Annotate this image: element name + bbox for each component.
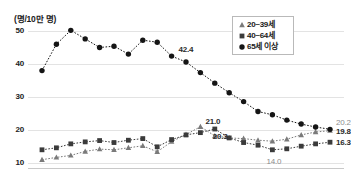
data-label-14-0: 14.0: [266, 157, 281, 166]
legend-item-label: 40~64세: [247, 30, 275, 41]
data-point: [241, 140, 246, 145]
data-point: [270, 147, 275, 152]
data-point: [270, 112, 275, 117]
data-point: [198, 124, 204, 129]
circle-marker: [237, 43, 246, 51]
legend-item-label: 65세 이상: [247, 41, 277, 52]
data-point: [328, 140, 333, 145]
data-point: [112, 140, 117, 145]
data-point: [256, 143, 261, 148]
data-point: [298, 132, 304, 137]
data-point: [39, 157, 45, 162]
data-point: [140, 136, 145, 141]
data-point: [40, 147, 45, 152]
data-point: [169, 53, 174, 58]
chart-legend: 20~39세40~64세65세 이상: [232, 16, 294, 55]
triangle-marker: [237, 21, 246, 29]
data-label-42-4: 42.4: [179, 45, 194, 54]
data-point: [212, 127, 217, 132]
legend-item-1[interactable]: 20~39세: [237, 19, 288, 30]
data-point: [97, 146, 103, 151]
data-point: [198, 70, 203, 75]
data-label-21-0: 21.0: [205, 117, 220, 126]
data-label-20-3: 20.3: [213, 132, 228, 141]
data-point: [97, 45, 102, 50]
data-label-19-8: 19.8: [336, 127, 351, 136]
data-point: [198, 130, 203, 135]
data-point: [68, 28, 73, 33]
data-point: [97, 138, 102, 143]
data-point: [83, 139, 88, 144]
data-point: [68, 152, 74, 157]
data-point: [140, 38, 145, 43]
data-point: [126, 138, 131, 143]
data-point: [54, 42, 59, 47]
data-point: [299, 121, 304, 126]
data-point: [155, 40, 160, 45]
data-point: [255, 137, 261, 142]
legend-item-label: 20~39세: [247, 19, 275, 30]
data-point: [126, 145, 132, 150]
legend-item-2[interactable]: 40~64세: [237, 30, 288, 41]
square-marker: [237, 32, 246, 40]
data-point: [255, 109, 260, 114]
data-point: [313, 141, 318, 146]
data-point: [83, 36, 88, 41]
data-point: [68, 141, 73, 146]
data-point: [169, 137, 174, 142]
data-point: [241, 99, 246, 104]
data-point: [54, 145, 59, 150]
data-point: [155, 144, 160, 149]
data-point: [126, 51, 131, 56]
data-label-16-3: 16.3: [336, 138, 351, 147]
data-point: [284, 146, 289, 151]
data-point: [212, 80, 217, 85]
legend-item-3[interactable]: 65세 이상: [237, 41, 288, 52]
data-point: [313, 124, 318, 129]
data-point: [183, 59, 188, 64]
data-point: [284, 117, 289, 122]
data-point: [111, 43, 116, 48]
data-point: [299, 144, 304, 149]
data-point: [140, 143, 146, 148]
data-point: [227, 90, 232, 95]
data-point: [184, 133, 189, 138]
data-point: [327, 127, 332, 132]
data-point: [39, 68, 44, 73]
